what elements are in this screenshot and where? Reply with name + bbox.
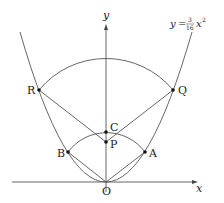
point-C [104,130,108,134]
label-y-axis: y [102,9,110,22]
svg-text:3: 3 [188,16,192,23]
segment-AO [106,152,145,182]
label-Q: Q [178,84,187,97]
label-C: C [110,121,118,134]
svg-text:16: 16 [186,24,194,31]
equation-label: y = 3 16 x 2 [169,16,206,31]
label-x-axis: x [196,182,203,195]
point-Q [171,88,175,92]
parabola-diagram: R Q B A C P O x y y = 3 16 x 2 [0,0,224,203]
y-axis [104,24,108,192]
point-A [143,150,147,154]
label-P: P [110,138,118,151]
point-P [104,140,108,144]
label-B: B [57,147,65,160]
point-B [66,150,70,154]
svg-text:y: y [169,18,176,29]
label-O: O [102,185,111,198]
segment-BO [68,152,106,182]
label-A: A [148,147,158,160]
point-R [37,88,41,92]
label-R: R [27,84,36,97]
svg-text:2: 2 [202,16,206,23]
